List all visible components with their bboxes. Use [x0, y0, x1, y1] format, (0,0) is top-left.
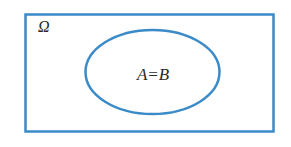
- venn-diagram: Ω A=B: [0, 0, 291, 147]
- set-label: A=B: [136, 65, 170, 84]
- universe-label: Ω: [38, 18, 50, 35]
